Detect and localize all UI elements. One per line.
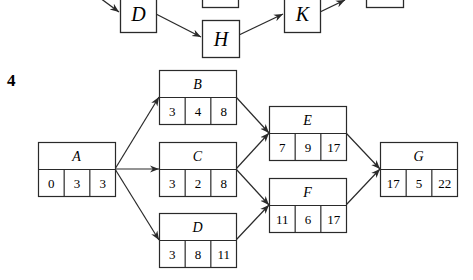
top-edge-arrow	[100, 0, 119, 12]
problem-number: 4	[7, 71, 16, 90]
cell-earliest-start: 3	[169, 104, 176, 119]
cell-duration: 3	[74, 176, 81, 191]
top-node-label: H	[213, 28, 230, 50]
activity-node-e: E7917	[270, 107, 347, 161]
edge-b-to-e	[236, 97, 269, 133]
activity-node-a: A033	[39, 143, 116, 197]
activity-label: D	[191, 220, 202, 235]
top-edge-arrow	[320, 0, 345, 12]
cell-duration: 6	[305, 212, 312, 227]
cell-earliest-finish: 8	[220, 176, 227, 191]
top-fragment-nodes: DHK	[121, 0, 404, 58]
activity-label: G	[413, 149, 423, 164]
cell-earliest-finish: 3	[99, 176, 106, 191]
top-node-h: H	[203, 21, 240, 58]
activity-node-d: D3811	[160, 214, 237, 268]
activity-node-b: B348	[160, 71, 237, 125]
edge-c-to-f	[236, 169, 269, 205]
cell-earliest-finish: 8	[220, 104, 227, 119]
edge-e-to-g	[346, 133, 380, 169]
top-edge-arrow	[239, 14, 283, 35]
activity-node-g: G17522	[381, 143, 458, 197]
top-node-label: K	[295, 3, 311, 25]
activity-label: E	[302, 113, 312, 128]
top-node-k: K	[285, 0, 321, 33]
cell-duration: 4	[195, 104, 202, 119]
cell-duration: 9	[305, 140, 312, 155]
cell-earliest-start: 7	[279, 140, 286, 155]
top-node-blank	[367, 0, 404, 8]
cell-earliest-finish: 17	[327, 212, 341, 227]
cell-duration: 5	[416, 176, 423, 191]
cell-earliest-start: 11	[276, 212, 289, 227]
activity-label: A	[71, 149, 81, 164]
cell-earliest-finish: 11	[217, 247, 230, 262]
activity-label: B	[193, 77, 202, 92]
activity-node-f: F11617	[270, 179, 347, 233]
edge-a-to-d	[115, 169, 159, 240]
activity-network-diagram: DHK A033B348C328D3811E7917F11617G17522 4	[0, 0, 473, 280]
cell-earliest-start: 3	[169, 176, 176, 191]
cell-earliest-start: 3	[169, 247, 176, 262]
network-nodes: A033B348C328D3811E7917F11617G17522	[39, 71, 458, 268]
diagram-canvas: DHK A033B348C328D3811E7917F11617G17522 4	[0, 0, 473, 280]
edge-c-to-e	[236, 133, 269, 169]
top-node-d: D	[121, 0, 157, 33]
edge-f-to-g	[346, 169, 380, 205]
cell-earliest-finish: 22	[438, 176, 451, 191]
edge-a-to-b	[115, 97, 159, 169]
activity-label: C	[193, 149, 203, 164]
top-edge-arrow	[156, 14, 201, 37]
top-node-label: D	[130, 3, 146, 25]
top-node-blank	[203, 0, 239, 8]
cell-earliest-start: 17	[387, 176, 401, 191]
cell-earliest-start: 0	[48, 176, 55, 191]
activity-node-c: C328	[160, 143, 237, 197]
cell-duration: 8	[195, 247, 202, 262]
edge-d-to-f	[236, 205, 269, 240]
cell-earliest-finish: 17	[327, 140, 341, 155]
cell-duration: 2	[195, 176, 202, 191]
activity-label: F	[302, 185, 312, 200]
